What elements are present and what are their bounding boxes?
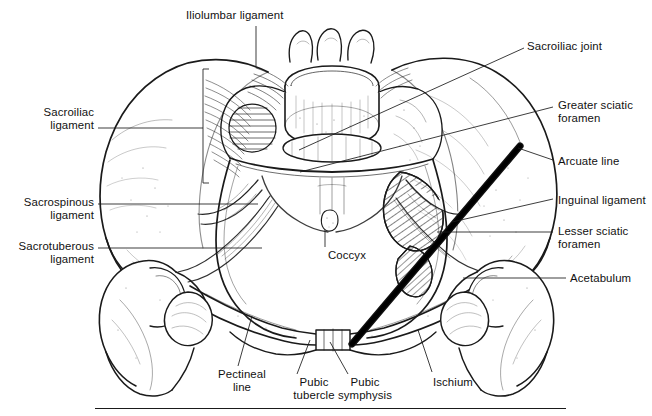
pelvis-anatomy-illustration bbox=[0, 0, 652, 416]
arcuate-line-left bbox=[216, 160, 296, 338]
label-sacroiliac-ligament: Sacroiliac ligament bbox=[44, 106, 94, 132]
greater-sciatic-foramen bbox=[383, 172, 443, 251]
label-lesser-sciatic-foramen: Lesser sciatic foramen bbox=[558, 225, 628, 251]
label-pubic-symphysis: Pubic symphysis bbox=[323, 376, 407, 402]
leader-pectineal-line bbox=[238, 316, 252, 366]
label-sacroiliac-joint: Sacroiliac joint bbox=[527, 40, 602, 53]
label-arcuate-line: Arcuate line bbox=[558, 155, 619, 168]
label-greater-sciatic-foramen: Greater sciatic foramen bbox=[558, 99, 633, 125]
label-sacrospinous-ligament: Sacrospinous ligament bbox=[24, 196, 94, 222]
bottom-rule bbox=[95, 408, 566, 409]
figure-canvas: Iliolumbar ligamentSacroiliac jointGreat… bbox=[0, 0, 652, 416]
label-acetabulum: Acetabulum bbox=[570, 272, 631, 285]
label-ischium: Ischium bbox=[411, 376, 495, 389]
label-inguinal-ligament: Inguinal ligament bbox=[558, 194, 646, 207]
label-coccyx: Coccyx bbox=[305, 249, 389, 262]
label-sacrotuberous-ligament: Sacrotuberous ligament bbox=[19, 240, 94, 266]
l5-vertebra bbox=[283, 29, 381, 162]
label-iliolumbar-ligament: Iliolumbar ligament bbox=[186, 9, 284, 22]
